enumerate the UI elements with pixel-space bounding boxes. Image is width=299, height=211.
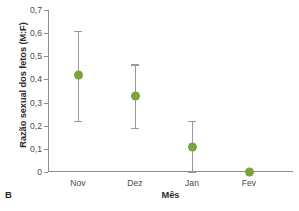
chart-figure: Razão sexual dos fetos (M:F) 00,10,20,30… bbox=[0, 0, 299, 211]
y-tick-label: 0,2 bbox=[30, 121, 42, 131]
error-bar-cap-top bbox=[74, 31, 82, 32]
y-tick-label: 0,7 bbox=[30, 5, 42, 15]
y-tick-label: 0,4 bbox=[30, 74, 42, 84]
x-axis-title: Mês bbox=[48, 190, 293, 200]
data-point-marker bbox=[74, 70, 83, 79]
y-tick-mark bbox=[44, 10, 48, 11]
data-point-marker bbox=[131, 91, 140, 100]
y-tick-mark bbox=[44, 33, 48, 34]
error-bar-cap-bottom bbox=[74, 121, 82, 122]
y-tick-mark bbox=[44, 149, 48, 150]
data-point-marker bbox=[188, 142, 197, 151]
y-tick-mark bbox=[44, 56, 48, 57]
y-tick-mark bbox=[44, 103, 48, 104]
y-tick-label: 0,1 bbox=[30, 144, 42, 154]
error-bar-cap-bottom bbox=[188, 172, 196, 173]
y-tick-label: 0,5 bbox=[30, 51, 42, 61]
error-bar-cap-top bbox=[131, 64, 139, 65]
y-axis-title: Razão sexual dos fetos (M:F) bbox=[18, 10, 28, 160]
y-tick-mark bbox=[44, 126, 48, 127]
y-tick-label: 0,3 bbox=[30, 98, 42, 108]
panel-label: B bbox=[5, 189, 12, 200]
y-tick-mark bbox=[44, 79, 48, 80]
error-bar-cap-bottom bbox=[131, 128, 139, 129]
y-tick-label: 0,6 bbox=[30, 28, 42, 38]
y-tick-mark bbox=[44, 172, 48, 173]
plot-area: 00,10,20,30,40,50,60,7 NovDezJanFev bbox=[48, 10, 293, 172]
error-bar-cap-top bbox=[188, 121, 196, 122]
y-axis-line bbox=[48, 10, 49, 172]
x-tick-label: Nov bbox=[70, 178, 85, 188]
data-point-marker bbox=[245, 168, 254, 177]
x-tick-label: Dez bbox=[127, 178, 142, 188]
x-tick-label: Fev bbox=[242, 178, 256, 188]
y-tick-label: 0 bbox=[37, 167, 42, 177]
x-tick-label: Jan bbox=[185, 178, 199, 188]
x-axis-line bbox=[48, 171, 293, 172]
